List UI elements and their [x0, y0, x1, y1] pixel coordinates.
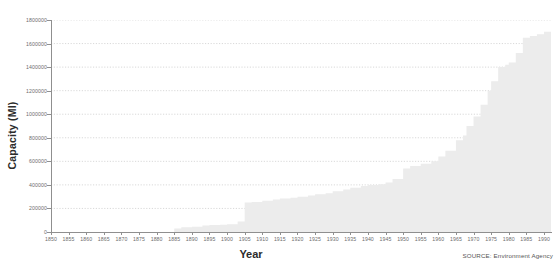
source-note: SOURCE: Environment Agency [462, 252, 553, 259]
x-tick-label: 1870 [115, 236, 127, 242]
x-tick-label: 1885 [168, 236, 180, 242]
y-tick-label: 1600000 [26, 41, 47, 47]
y-tick-mark [47, 91, 51, 92]
x-tick-label: 1965 [450, 236, 462, 242]
y-tick-mark [47, 138, 51, 139]
y-tick-label: 1400000 [26, 64, 47, 70]
y-tick-mark [47, 185, 51, 186]
x-tick-label: 1940 [362, 236, 374, 242]
x-tick-mark [509, 233, 510, 235]
x-tick-label: 1960 [432, 236, 444, 242]
series-area-cumulative-capacity [51, 25, 551, 232]
x-tick-mark [315, 233, 316, 235]
area-series-path [51, 25, 551, 232]
x-tick-mark [297, 233, 298, 235]
x-tick-label: 1925 [309, 236, 321, 242]
y-tick-label: 1200000 [26, 88, 47, 94]
x-tick-label: 1955 [415, 236, 427, 242]
x-tick-label: 1930 [327, 236, 339, 242]
x-tick-label: 1850 [45, 236, 57, 242]
y-axis-line [51, 20, 52, 233]
plot-svg [51, 20, 551, 232]
x-tick-mark [86, 233, 87, 235]
x-tick-label: 1920 [291, 236, 303, 242]
x-tick-mark [438, 233, 439, 235]
y-tick-label: 1800000 [26, 17, 47, 23]
plot-area [51, 20, 551, 232]
x-tick-label: 1910 [256, 236, 268, 242]
x-tick-label: 1980 [503, 236, 515, 242]
x-tick-label: 1970 [468, 236, 480, 242]
x-tick-label: 1915 [274, 236, 286, 242]
x-tick-label: 1945 [380, 236, 392, 242]
x-tick-mark [350, 233, 351, 235]
x-tick-mark [121, 233, 122, 235]
x-tick-label: 1895 [203, 236, 215, 242]
y-tick-label: 600000 [29, 158, 47, 164]
x-tick-mark [245, 233, 246, 235]
y-axis-tick-labels: 0200000400000600000800000100000012000001… [0, 0, 51, 271]
x-tick-label: 1905 [239, 236, 251, 242]
x-tick-mark [280, 233, 281, 235]
x-tick-mark [157, 233, 158, 235]
x-tick-mark [544, 233, 545, 235]
y-tick-label: 800000 [29, 135, 47, 141]
x-tick-label: 1875 [133, 236, 145, 242]
x-tick-label: 1880 [151, 236, 163, 242]
y-tick-mark [47, 161, 51, 162]
x-tick-label: 1950 [397, 236, 409, 242]
x-tick-mark [69, 233, 70, 235]
x-tick-label: 1855 [63, 236, 75, 242]
x-tick-mark [368, 233, 369, 235]
x-tick-label: 1935 [344, 236, 356, 242]
x-tick-mark [139, 233, 140, 235]
x-tick-mark [51, 233, 52, 235]
x-tick-mark [104, 233, 105, 235]
x-tick-label: 1860 [80, 236, 92, 242]
capacity-year-chart: Capacity (Ml) 02000004000006000008000001… [0, 0, 559, 271]
y-tick-label: 200000 [29, 205, 47, 211]
x-tick-mark [174, 233, 175, 235]
x-tick-mark [421, 233, 422, 235]
x-tick-label: 1900 [221, 236, 233, 242]
y-tick-mark [47, 44, 51, 45]
x-tick-mark [333, 233, 334, 235]
x-tick-mark [192, 233, 193, 235]
y-tick-mark [47, 20, 51, 21]
x-tick-mark [474, 233, 475, 235]
x-tick-mark [209, 233, 210, 235]
x-tick-mark [403, 233, 404, 235]
y-tick-mark [47, 67, 51, 68]
x-tick-mark [227, 233, 228, 235]
x-tick-mark [386, 233, 387, 235]
x-tick-label: 1865 [98, 236, 110, 242]
x-tick-mark [456, 233, 457, 235]
x-axis-title: Year [51, 248, 451, 260]
y-tick-mark [47, 114, 51, 115]
x-tick-mark [491, 233, 492, 235]
x-tick-label: 1990 [538, 236, 550, 242]
x-tick-mark [526, 233, 527, 235]
x-tick-label: 1975 [485, 236, 497, 242]
x-axis-tick-labels: 1850185518601865187018751880188518901895… [0, 233, 559, 247]
y-tick-label: 400000 [29, 182, 47, 188]
x-tick-mark [262, 233, 263, 235]
x-tick-label: 1890 [186, 236, 198, 242]
y-tick-label: 1000000 [26, 111, 47, 117]
y-tick-mark [47, 208, 51, 209]
x-tick-label: 1985 [520, 236, 532, 242]
